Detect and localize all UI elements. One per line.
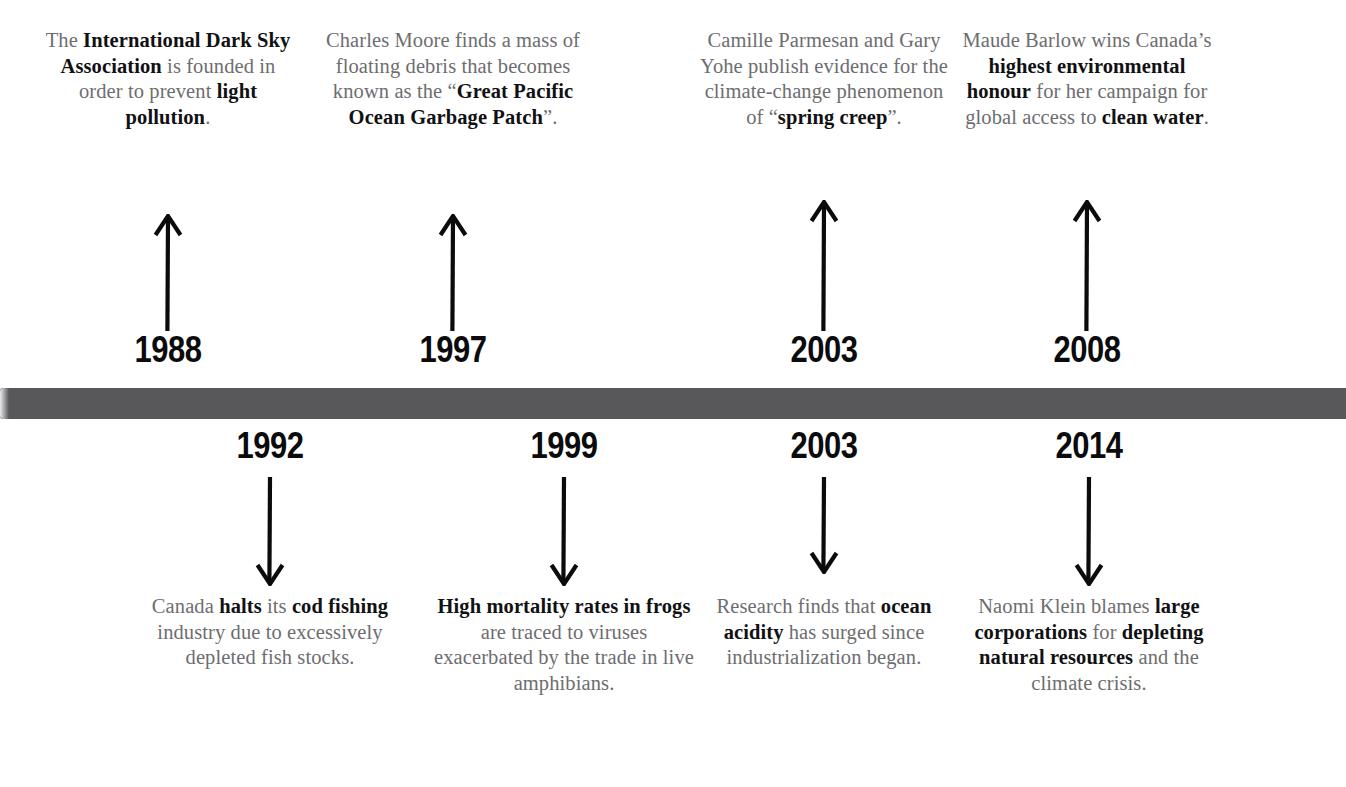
arrow-up-icon <box>803 200 845 332</box>
entry-description: Canada halts its cod fishing industry du… <box>146 594 394 671</box>
body-text: . <box>1204 106 1209 128</box>
body-text: . <box>205 106 210 128</box>
emphasis-text: halts <box>219 595 262 617</box>
body-text: Research finds that <box>717 595 881 617</box>
timeline-entry-2014-below: 2014Naomi Klein blames large corporation… <box>952 428 1226 696</box>
emphasis-text: spring creep <box>778 106 888 128</box>
arrow-down-icon <box>249 476 291 586</box>
timeline-entry-1992-below: 1992Canada halts its cod fishing industr… <box>146 428 394 671</box>
arrow-down-icon <box>1068 476 1110 586</box>
body-text: ”. <box>887 106 901 128</box>
timeline-canvas: The International Dark Sky Association i… <box>0 0 1346 787</box>
year-label: 2014 <box>1055 428 1122 464</box>
timeline-bar <box>0 388 1346 419</box>
arrow-down-icon <box>803 476 845 574</box>
emphasis-text: High mortality rates in frogs <box>437 595 690 617</box>
body-text: ”. <box>543 106 557 128</box>
body-text: for <box>1087 621 1122 643</box>
emphasis-text: clean water <box>1102 106 1204 128</box>
entry-description: Research finds that ocean acidity has su… <box>700 594 948 671</box>
body-text: are traced to viruses exacerbated by the… <box>434 621 694 694</box>
year-label: 1999 <box>530 428 597 464</box>
timeline-entry-2008-above: Maude Barlow wins Canada’s highest envir… <box>962 28 1212 368</box>
entry-description: Naomi Klein blames large corporations fo… <box>952 594 1226 696</box>
entry-description: Camille Parmesan and Gary Yohe publish e… <box>700 28 948 130</box>
year-label: 2003 <box>790 332 857 368</box>
timeline-entry-2003-above: Camille Parmesan and Gary Yohe publish e… <box>700 28 948 368</box>
entry-description: Charles Moore finds a mass of floating d… <box>326 28 580 130</box>
year-label: 2003 <box>790 428 857 464</box>
year-label: 1992 <box>236 428 303 464</box>
arrow-up-icon <box>1066 200 1108 332</box>
entry-description: High mortality rates in frogs are traced… <box>433 594 695 696</box>
body-text: Canada <box>152 595 219 617</box>
timeline-entry-1988-above: The International Dark Sky Association i… <box>40 28 296 368</box>
arrow-up-icon <box>147 214 189 332</box>
entry-description: Maude Barlow wins Canada’s highest envir… <box>962 28 1212 130</box>
body-text: industry due to excessively depleted fis… <box>157 621 382 669</box>
timeline-entry-1999-below: 1999High mortality rates in frogs are tr… <box>433 428 695 696</box>
year-label: 1997 <box>419 332 486 368</box>
emphasis-text: cod fishing <box>292 595 388 617</box>
year-label: 2008 <box>1053 332 1120 368</box>
entry-description: The International Dark Sky Association i… <box>40 28 296 130</box>
body-text: Naomi Klein blames <box>978 595 1155 617</box>
arrow-down-icon <box>543 476 585 586</box>
timeline-entry-2003-below: 2003Research finds that ocean acidity ha… <box>700 428 948 671</box>
arrow-up-icon <box>432 214 474 332</box>
body-text: Maude Barlow wins Canada’s <box>962 29 1211 51</box>
timeline-entry-1997-above: Charles Moore finds a mass of floating d… <box>326 28 580 368</box>
year-label: 1988 <box>134 332 201 368</box>
body-text: its <box>262 595 292 617</box>
body-text: The <box>46 29 83 51</box>
